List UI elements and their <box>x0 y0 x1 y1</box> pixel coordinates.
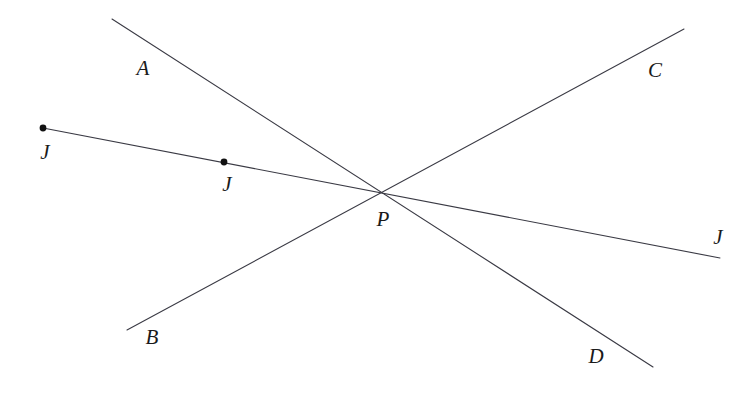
dot-J1 <box>40 125 47 132</box>
point-label-c: C <box>648 60 662 81</box>
point-label-p: P <box>377 209 390 230</box>
point-label-b: B <box>146 327 159 348</box>
point-label-a: A <box>137 58 150 79</box>
dot-J2 <box>221 159 228 166</box>
point-label-d: D <box>588 346 603 367</box>
point-label-j1: J <box>40 142 49 163</box>
line-B-C <box>127 29 684 330</box>
point-label-j3: J <box>713 227 722 248</box>
line-J-J <box>43 128 720 258</box>
geometry-figure: ABCDPJJJ <box>0 0 756 400</box>
point-label-j2: J <box>222 174 231 195</box>
geometry-canvas <box>0 0 756 400</box>
